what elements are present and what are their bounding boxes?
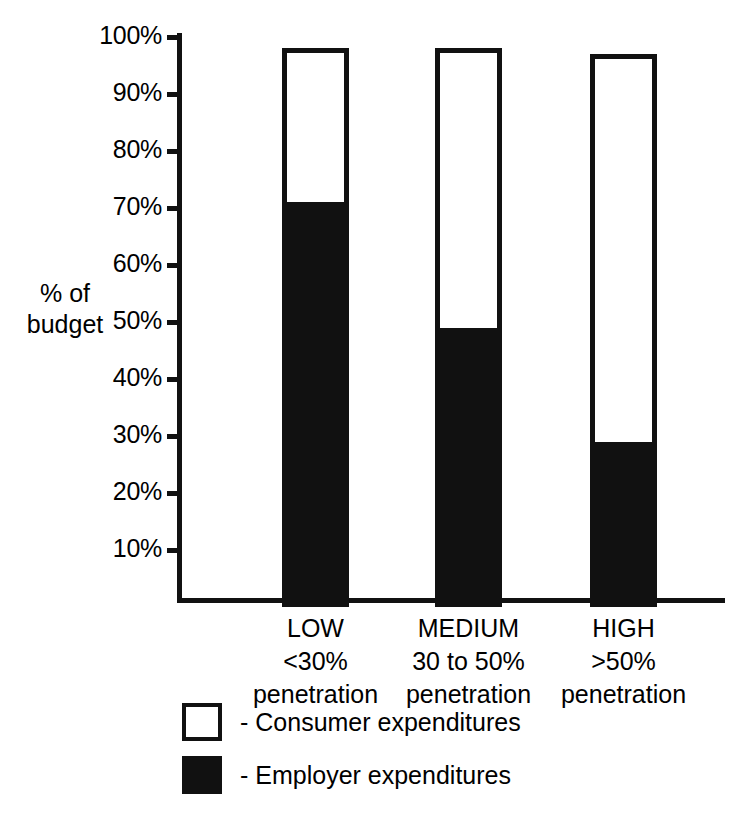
bar-medium (435, 48, 502, 607)
y-axis-tick-label-text: 20% (0, 479, 162, 504)
y-axis-tick-label-text: 80% (0, 137, 162, 162)
y-axis-tick (167, 320, 178, 325)
y-axis-tick (167, 35, 178, 40)
x-axis-label-sub: penetration (529, 678, 719, 711)
y-axis-tick-label: 100% (0, 23, 162, 48)
bar-segment-employer-high (595, 442, 652, 602)
y-axis-tick-label: 40% (0, 365, 162, 390)
y-axis-tick-label-text: 40% (0, 365, 162, 390)
bar-chart: % of budget 100%90%80%70%60%50%40%30%20%… (0, 0, 747, 819)
y-axis-tick (167, 92, 178, 97)
y-axis-tick-label: 10% (0, 536, 162, 561)
y-axis-tick (167, 149, 178, 154)
y-axis-tick (167, 548, 178, 553)
y-axis-line (177, 33, 182, 603)
bar-segment-employer-medium (440, 328, 497, 602)
legend-label: - Employer expenditures (240, 760, 511, 790)
y-axis-tick (167, 263, 178, 268)
y-axis-tick (167, 206, 178, 211)
y-axis-tick-label-text: 30% (0, 422, 162, 447)
x-axis-label-sub: >50% (529, 645, 719, 678)
y-axis-tick-label: 60% (0, 251, 162, 276)
y-axis-tick-label: 30% (0, 422, 162, 447)
legend-swatch-filled (182, 756, 222, 794)
y-axis-tick (167, 434, 178, 439)
legend-label: - Consumer expenditures (240, 707, 521, 737)
bar-segment-employer-low (287, 202, 344, 602)
y-axis-tick-label: 90% (0, 80, 162, 105)
legend-swatch-empty (182, 703, 222, 741)
y-axis-tick-label: 50% (0, 308, 162, 333)
x-axis-label-main: HIGH (529, 612, 719, 645)
y-axis-tick-label-text: 70% (0, 194, 162, 219)
y-axis-tick-label-text: 100% (0, 23, 162, 48)
y-axis-tick-label: 20% (0, 479, 162, 504)
y-axis-tick-label-text: 90% (0, 80, 162, 105)
y-axis-tick-label-text: 60% (0, 251, 162, 276)
y-axis-tick (167, 377, 178, 382)
bar-low (282, 48, 349, 607)
y-axis-tick-label-text: 10% (0, 536, 162, 561)
y-axis-title-line1: % of (10, 278, 120, 309)
x-axis-label-high: HIGH>50%penetration (529, 612, 719, 711)
y-axis-tick-label-text: 50% (0, 308, 162, 333)
y-axis-tick-label: 80% (0, 137, 162, 162)
y-axis-tick (167, 491, 178, 496)
y-axis-tick-label: 70% (0, 194, 162, 219)
bar-high (590, 54, 657, 607)
